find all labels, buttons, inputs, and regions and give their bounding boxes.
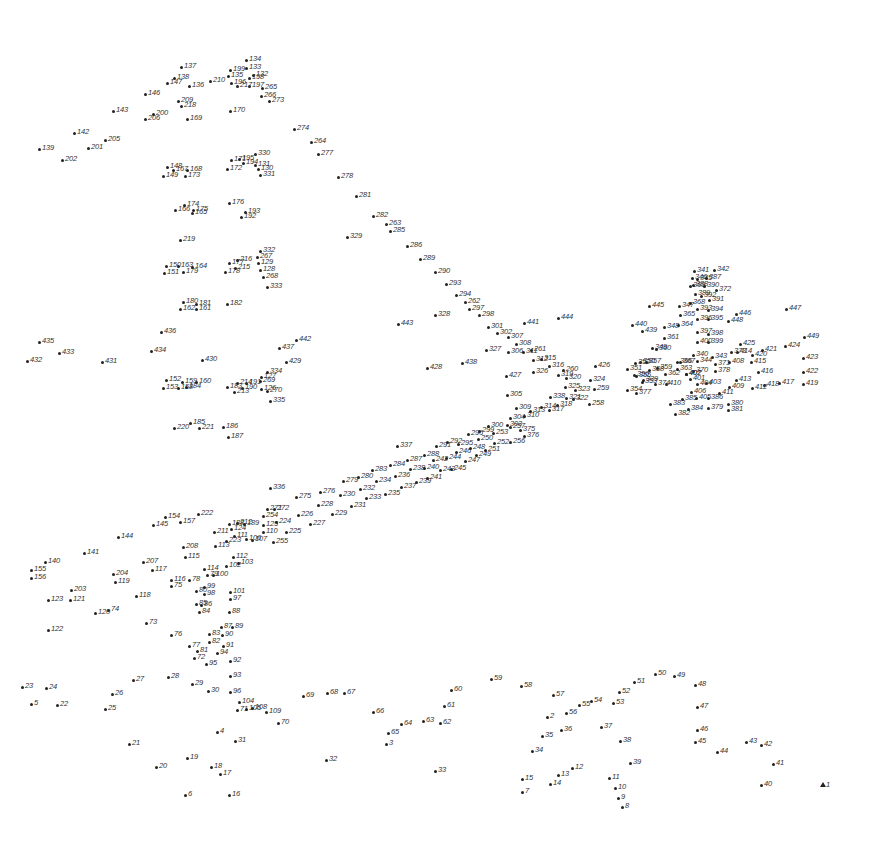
dot-marker: [192, 209, 195, 212]
dot-marker: [230, 82, 233, 85]
dot-number: 5: [34, 698, 38, 707]
dot-marker: [619, 740, 622, 743]
dot-number: 205: [108, 134, 120, 143]
dot-number: 335: [273, 395, 285, 404]
dot-number: 316: [552, 360, 564, 369]
dot-number: 269: [263, 375, 275, 384]
dot-marker: [30, 703, 33, 706]
dot-marker: [191, 212, 194, 215]
dot-number: 235: [388, 488, 400, 497]
dot-marker: [714, 363, 717, 366]
dot-marker: [229, 69, 232, 72]
dot-marker: [655, 348, 658, 351]
dot-number: 199: [233, 64, 245, 73]
dot-number: 115: [188, 551, 199, 560]
dot-marker: [317, 153, 320, 156]
dot-number: 275: [299, 491, 311, 500]
dot-marker: [266, 286, 269, 289]
dot-marker: [260, 95, 263, 98]
dot-marker: [205, 663, 208, 666]
dot-marker: [560, 729, 563, 732]
dot-marker: [196, 650, 199, 653]
dot-marker: [47, 599, 50, 602]
dot-marker: [685, 373, 688, 376]
dot-number: 14: [553, 778, 561, 787]
dot-marker: [676, 368, 679, 371]
dot-marker: [467, 433, 470, 436]
dot-number: 108: [255, 702, 267, 711]
dot-marker: [696, 318, 699, 321]
dot-marker: [70, 589, 73, 592]
dot-marker: [184, 556, 187, 559]
dot-marker: [188, 579, 191, 582]
dot-marker: [468, 308, 471, 311]
dot-marker: [739, 343, 742, 346]
dot-marker: [695, 397, 698, 400]
dot-number: 40: [764, 779, 772, 788]
dot-number: 1: [826, 780, 830, 789]
dot-marker: [426, 367, 429, 370]
dot-number: 63: [426, 715, 434, 724]
dot-marker: [478, 430, 481, 433]
dot-marker: [464, 460, 467, 463]
dot-number: 60: [454, 684, 462, 693]
dot-marker: [266, 390, 269, 393]
dot-number: 428: [430, 362, 442, 371]
dot-number: 175: [196, 204, 208, 213]
dot-number: 41: [776, 758, 784, 767]
dot-number: 226: [301, 509, 313, 518]
dot-marker: [529, 410, 532, 413]
dot-number: 220: [177, 422, 189, 431]
dot-number: 300: [491, 420, 503, 429]
dot-marker: [802, 357, 805, 360]
dot-marker: [112, 110, 115, 113]
dot-number: 133: [249, 62, 261, 71]
dot-marker: [426, 477, 429, 480]
dot-marker: [687, 408, 690, 411]
dot-marker: [648, 369, 651, 372]
dot-marker: [186, 118, 189, 121]
dot-number: 270: [270, 385, 282, 394]
dot-marker: [182, 271, 185, 274]
dot-marker: [259, 250, 262, 253]
dot-marker: [634, 362, 637, 365]
dot-marker: [669, 403, 672, 406]
dot-marker: [170, 585, 173, 588]
dot-marker: [718, 392, 721, 395]
dot-marker: [104, 708, 107, 711]
dot-marker: [496, 332, 499, 335]
dot-marker: [365, 497, 368, 500]
dot-number: 74: [111, 604, 119, 613]
dot-number: 169: [190, 113, 202, 122]
dot-marker: [443, 705, 446, 708]
dot-marker: [203, 568, 206, 571]
dot-marker: [614, 787, 617, 790]
dot-number: 90: [225, 629, 233, 638]
dot-marker: [557, 317, 560, 320]
dot-marker: [240, 216, 243, 219]
dot-marker: [251, 707, 254, 710]
dot-number: 139: [42, 143, 54, 152]
dot-number: 73: [149, 617, 157, 626]
dot-marker: [785, 308, 788, 311]
dot-marker: [707, 309, 710, 312]
dot-number: 298: [482, 309, 494, 318]
dot-marker: [94, 612, 97, 615]
dot-number: 170: [233, 105, 245, 114]
dot-number: 285: [393, 225, 405, 234]
dot-marker: [254, 153, 257, 156]
dot-marker: [114, 581, 117, 584]
dot-number: 441: [527, 317, 539, 326]
dot-marker: [565, 712, 568, 715]
dot-number: 193: [248, 206, 260, 215]
dot-marker: [694, 741, 697, 744]
dot-number: 146: [148, 88, 160, 97]
dot-marker: [450, 468, 453, 471]
dot-number: 144: [121, 531, 133, 540]
dot-marker: [641, 330, 644, 333]
dot-marker: [509, 417, 512, 420]
dot-marker: [371, 469, 374, 472]
dot-marker: [56, 704, 59, 707]
dot-number: 20: [159, 761, 167, 770]
dot-marker: [612, 702, 615, 705]
